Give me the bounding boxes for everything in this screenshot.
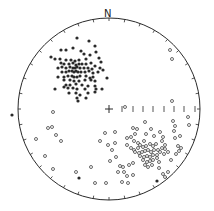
open-point — [161, 147, 164, 150]
stereonet-plot — [0, 0, 214, 211]
open-point — [153, 135, 156, 138]
open-point — [141, 151, 144, 154]
filled-point — [77, 62, 80, 65]
filled-point — [59, 48, 62, 51]
filled-point — [56, 66, 59, 69]
open-point — [132, 162, 135, 165]
filled-point — [78, 66, 81, 69]
open-point — [114, 142, 117, 145]
open-point — [153, 149, 156, 152]
filled-point — [82, 66, 85, 69]
filled-point — [155, 179, 158, 182]
open-point — [60, 140, 63, 143]
filled-point — [98, 66, 101, 69]
open-point — [52, 111, 55, 114]
open-point — [169, 49, 172, 52]
filled-point — [72, 79, 75, 82]
filled-point — [53, 87, 56, 90]
filled-point — [90, 67, 93, 70]
open-point — [144, 150, 147, 153]
open-point — [127, 182, 130, 185]
open-point — [171, 100, 174, 103]
filled-point — [62, 85, 65, 88]
open-point — [179, 135, 182, 138]
open-point — [143, 140, 146, 143]
open-point — [146, 161, 149, 164]
open-point — [107, 144, 110, 147]
filled-point — [91, 71, 94, 74]
filled-point — [75, 75, 78, 78]
filled-point — [94, 87, 97, 90]
open-point — [150, 128, 153, 131]
open-point — [126, 144, 129, 147]
open-point — [175, 153, 178, 156]
open-point — [155, 143, 158, 146]
open-point — [161, 140, 164, 143]
filled-point — [91, 75, 94, 78]
filled-point — [71, 86, 74, 89]
filled-point — [94, 50, 97, 53]
filled-point — [75, 96, 78, 99]
open-point — [170, 159, 173, 162]
open-point — [174, 125, 177, 128]
open-point — [126, 175, 129, 178]
filled-point — [49, 55, 52, 58]
filled-point — [62, 75, 65, 78]
open-point — [178, 150, 181, 153]
open-point — [147, 149, 150, 152]
open-point — [146, 155, 149, 158]
open-point — [75, 171, 78, 174]
open-point — [167, 171, 170, 174]
filled-point — [99, 60, 102, 63]
open-point — [173, 130, 176, 133]
open-point — [136, 128, 139, 131]
filled-point — [58, 57, 61, 60]
open-point — [149, 156, 152, 159]
open-point — [151, 164, 154, 167]
filled-point — [68, 65, 71, 68]
open-point — [128, 164, 131, 167]
open-point — [152, 145, 155, 148]
filled-point — [93, 79, 96, 82]
open-point — [104, 132, 107, 135]
open-point — [119, 165, 122, 168]
filled-point — [69, 58, 72, 61]
filled-point — [93, 90, 96, 93]
open-point — [162, 173, 165, 176]
open-point — [163, 153, 166, 156]
filled-point — [78, 74, 81, 77]
open-point — [126, 137, 129, 140]
open-point — [159, 131, 162, 134]
open-point — [149, 160, 152, 163]
open-point — [152, 154, 155, 157]
open-point — [130, 136, 133, 139]
open-point — [158, 161, 161, 164]
open-point — [55, 134, 58, 137]
open-point — [105, 182, 108, 185]
open-point — [145, 145, 148, 148]
open-point — [123, 171, 126, 174]
scale-bar — [122, 106, 195, 112]
open-point — [149, 143, 152, 146]
open-point — [121, 181, 124, 184]
open-point — [164, 144, 167, 147]
open-point — [156, 157, 159, 160]
filled-point — [56, 75, 59, 78]
filled-point — [86, 91, 89, 94]
filled-point — [75, 36, 78, 39]
filled-point — [93, 64, 96, 67]
open-point — [142, 159, 145, 162]
filled-point — [74, 91, 77, 94]
filled-point — [72, 75, 75, 78]
filled-point — [84, 96, 87, 99]
filled-point — [64, 58, 67, 61]
open-point — [111, 149, 114, 152]
open-point — [147, 166, 150, 169]
filled-point — [68, 83, 71, 86]
open-point — [114, 131, 117, 134]
filled-point — [105, 76, 108, 79]
open-point — [90, 166, 93, 169]
open-point — [51, 126, 54, 129]
open-point — [35, 138, 38, 141]
filled-point — [77, 58, 80, 61]
